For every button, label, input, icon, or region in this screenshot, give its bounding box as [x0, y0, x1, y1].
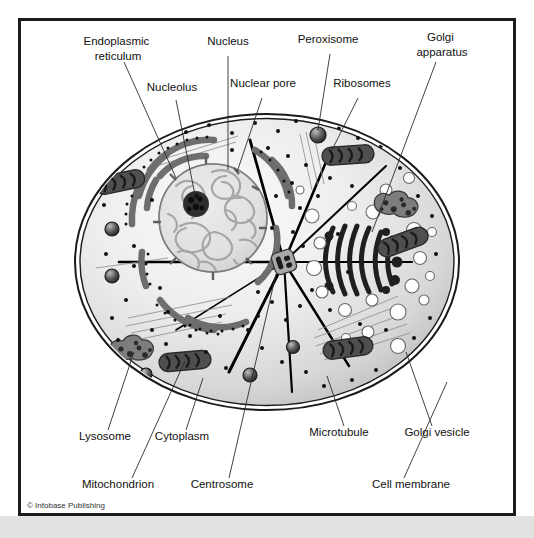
- ribosome: [291, 230, 295, 234]
- ribosome: [310, 288, 314, 292]
- ribosome: [398, 166, 402, 170]
- ribosome: [412, 336, 416, 340]
- ribosome: [230, 131, 234, 135]
- ribosome: [280, 360, 284, 364]
- ribosome: [430, 214, 434, 218]
- ribosome: [304, 370, 308, 374]
- label-nuclear-pore: Nuclear pore: [230, 77, 296, 89]
- ribosome: [284, 318, 288, 322]
- leader-golgi-vesicle: [406, 352, 432, 426]
- golgi-vesicle: [316, 286, 328, 298]
- ribosome: [138, 140, 142, 144]
- golgi-vesicle: [404, 173, 415, 184]
- nucleolus: [183, 191, 209, 217]
- label-peroxisome: Peroxisome: [298, 33, 359, 45]
- golgi-vesicle: [419, 295, 429, 305]
- label-nucleus: Nucleus: [207, 35, 249, 47]
- ribosome: [328, 176, 332, 180]
- golgi-vesicle: [390, 304, 406, 320]
- golgi-vesicle: [426, 272, 435, 281]
- peroxisome: [243, 368, 257, 382]
- golgi-vesicle: [314, 237, 326, 249]
- ribosome: [270, 226, 274, 230]
- ribosome: [104, 252, 108, 256]
- ribosome: [298, 206, 302, 210]
- golgi-vesicle: [305, 209, 319, 223]
- golgi-vesicle: [307, 261, 322, 276]
- golgi-vesicle: [428, 228, 437, 237]
- label-lysosome: Lysosome: [79, 430, 131, 442]
- label-microtubule: Microtubule: [309, 426, 368, 438]
- peroxisome: [287, 341, 300, 354]
- ribosome: [328, 308, 332, 312]
- ribosome: [230, 148, 234, 152]
- copyright-notice: © Infobase Publishing: [27, 501, 105, 510]
- ribosome: [256, 314, 260, 318]
- ribosome: [428, 316, 432, 320]
- golgi-vesicle: [391, 339, 406, 354]
- ribosome: [124, 298, 128, 302]
- ribosome: [166, 310, 170, 314]
- peroxisome: [105, 222, 119, 236]
- label-mitochondrion: Mitochondrion: [82, 478, 154, 490]
- ribosome: [350, 378, 354, 382]
- ribosome: [301, 244, 305, 248]
- peroxisome: [160, 119, 175, 134]
- golgi-vesicle: [405, 279, 419, 293]
- ribosome: [270, 300, 274, 304]
- ribosome: [218, 314, 222, 318]
- ribosome: [207, 123, 211, 127]
- label-golgi-vesicle: Golgi vesicle: [404, 426, 469, 438]
- ribosome: [336, 232, 340, 236]
- ribosome: [298, 304, 302, 308]
- ribosome: [337, 126, 341, 130]
- ribosome: [116, 338, 120, 342]
- ribosome: [290, 181, 294, 185]
- leader-peroxisome: [318, 54, 330, 130]
- ribosome: [204, 350, 208, 354]
- label-cytoplasm: Cytoplasm: [155, 430, 209, 442]
- label-ribosomes: Ribosomes: [333, 77, 391, 89]
- peroxisome: [105, 269, 119, 283]
- leader-lysosome: [108, 352, 134, 430]
- ribosome: [224, 366, 228, 370]
- ribosome: [274, 194, 278, 198]
- ribosome: [260, 346, 264, 350]
- label-endoplasmic-reticulum: Endoplasmic reticulum: [83, 35, 152, 62]
- ribosome: [384, 328, 388, 332]
- ribosome: [132, 264, 136, 268]
- ribosome: [374, 368, 378, 372]
- ribosome: [276, 129, 280, 133]
- ribosome: [256, 290, 260, 294]
- label-cell-membrane: Cell membrane: [372, 478, 450, 490]
- ribosome: [316, 194, 320, 198]
- ribosome: [150, 328, 154, 332]
- ribosome: [110, 316, 114, 320]
- ribosome: [158, 286, 162, 290]
- golgi-vesicle: [296, 186, 304, 194]
- ribosome: [346, 270, 350, 274]
- ribosome: [246, 328, 250, 332]
- mitochondrion: [321, 144, 374, 166]
- label-centrosome: Centrosome: [191, 478, 254, 490]
- ribosome: [322, 384, 326, 388]
- ribosome: [358, 322, 362, 326]
- golgi-vesicle: [339, 304, 352, 317]
- cell-diagram-canvas: Endoplasmic reticulum Nucleus Peroxisome…: [0, 0, 534, 538]
- ribosome: [150, 198, 154, 202]
- ribosome: [102, 203, 106, 207]
- ribosome: [118, 158, 122, 162]
- ribosome: [132, 244, 136, 248]
- ribosome: [286, 154, 290, 158]
- golgi-vesicle: [414, 252, 427, 265]
- ribosome: [266, 146, 270, 150]
- golgi-vesicle: [366, 294, 378, 306]
- ribosome: [416, 194, 420, 198]
- ribosome: [434, 252, 438, 256]
- ribosome: [164, 342, 168, 346]
- ribosome: [184, 130, 188, 134]
- ribosome: [188, 334, 192, 338]
- ribosome: [294, 119, 298, 123]
- ribosome: [304, 163, 308, 167]
- figure-page: Endoplasmic reticulum Nucleus Peroxisome…: [0, 0, 534, 538]
